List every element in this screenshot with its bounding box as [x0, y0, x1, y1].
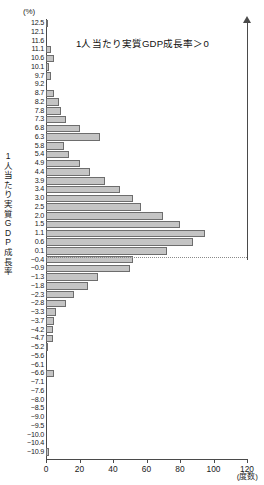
x-axis-tick-mark — [247, 459, 248, 463]
histogram-bar — [46, 221, 180, 228]
histogram-bar — [46, 125, 80, 132]
histogram-bar — [46, 72, 51, 79]
histogram-bar — [46, 177, 105, 184]
histogram-bar-row — [46, 264, 247, 273]
x-axis-tick-label: 0 — [44, 464, 49, 474]
histogram-bar — [46, 20, 48, 27]
histogram-bar-row — [46, 124, 247, 133]
histogram-bar-row — [46, 369, 247, 378]
x-axis-tick-label: 40 — [108, 464, 117, 474]
histogram-bar-row — [46, 247, 247, 256]
histogram-bar — [46, 63, 49, 70]
histogram-bar — [46, 370, 54, 377]
histogram-bar — [46, 238, 193, 245]
histogram-bar-row — [46, 133, 247, 142]
histogram-bar-row — [46, 317, 247, 326]
histogram-bar — [46, 107, 61, 114]
histogram-bar-row — [46, 19, 247, 28]
histogram-bar-row — [46, 439, 247, 448]
histogram-bar — [46, 308, 56, 315]
histogram-bar — [46, 203, 141, 210]
histogram-bar-row — [46, 107, 247, 116]
histogram-bar-row — [46, 404, 247, 413]
x-axis-tick-mark — [46, 459, 47, 463]
histogram-bar — [46, 160, 80, 167]
histogram-bar — [46, 291, 74, 298]
histogram-bar — [46, 46, 51, 53]
x-axis-tick-mark — [147, 459, 148, 463]
histogram-chart: (%) 1人当たり実質GDP成長率 12.512.111.611.110.610… — [0, 0, 264, 485]
histogram-bar — [46, 343, 48, 350]
histogram-bar-row — [46, 430, 247, 439]
histogram-bar-row — [46, 448, 247, 457]
histogram-bar-row — [46, 159, 247, 168]
y-axis-tick-labels: 12.512.111.611.110.610.19.79.28.78.27.87… — [1, 19, 44, 457]
histogram-bar-row — [46, 290, 247, 299]
histogram-bar-row — [46, 308, 247, 317]
histogram-bar-row — [46, 150, 247, 159]
histogram-bar-row — [46, 343, 247, 352]
histogram-bar-row — [46, 194, 247, 203]
x-axis-tick-mark — [214, 459, 215, 463]
plot-area — [46, 19, 247, 457]
histogram-bar-row — [46, 142, 247, 151]
x-axis-tick-mark — [113, 459, 114, 463]
histogram-bar — [46, 273, 98, 280]
histogram-bar-row — [46, 115, 247, 124]
histogram-bar — [46, 300, 66, 307]
x-axis-tick-mark — [180, 459, 181, 463]
histogram-bar-row — [46, 89, 247, 98]
histogram-bar-row — [46, 63, 247, 72]
histogram-bar-row — [46, 395, 247, 404]
histogram-bar-row — [46, 378, 247, 387]
histogram-bar-row — [46, 72, 247, 81]
histogram-bar — [46, 195, 133, 202]
histogram-bar-row — [46, 177, 247, 186]
x-axis-tick-label: 20 — [75, 464, 84, 474]
histogram-bar — [46, 142, 64, 149]
histogram-bar-row — [46, 238, 247, 247]
histogram-bar — [46, 90, 54, 97]
histogram-bar-row — [46, 413, 247, 422]
annotation-label: 1人当たり実質GDP成長率＞0 — [76, 36, 209, 50]
x-axis-tick-labels: 020406080100120 — [0, 458, 264, 480]
zero-reference-line — [46, 257, 247, 258]
histogram-bar-row — [46, 185, 247, 194]
histogram-bar-row — [46, 98, 247, 107]
histogram-bar — [46, 335, 53, 342]
x-axis-tick-label: 60 — [142, 464, 151, 474]
histogram-bar — [46, 265, 130, 272]
positive-growth-arrow — [241, 16, 253, 260]
histogram-bar — [46, 282, 88, 289]
histogram-bar-row — [46, 80, 247, 89]
histogram-bar-row — [46, 168, 247, 177]
histogram-bar-row — [46, 360, 247, 369]
arrow-shaft — [247, 22, 248, 260]
histogram-bar — [46, 55, 54, 62]
histogram-bar-row — [46, 273, 247, 282]
y-axis-tick-label: −10.9 — [4, 448, 44, 457]
histogram-bar-row — [46, 54, 247, 63]
x-axis-tick-mark — [80, 459, 81, 463]
histogram-bar — [46, 326, 53, 333]
histogram-bar-row — [46, 212, 247, 221]
x-axis-tick-label: 80 — [175, 464, 184, 474]
histogram-bar — [46, 247, 167, 254]
histogram-bar — [46, 151, 69, 158]
histogram-bar-row — [46, 334, 247, 343]
histogram-bar-row — [46, 282, 247, 291]
histogram-bar-row — [46, 352, 247, 361]
histogram-bar — [46, 212, 163, 219]
histogram-bar — [46, 116, 66, 123]
histogram-bar — [46, 133, 100, 140]
y-axis-unit-label: (%) — [23, 7, 35, 16]
histogram-bar-row — [46, 220, 247, 229]
histogram-bar-row — [46, 203, 247, 212]
histogram-bar — [46, 448, 49, 455]
x-axis-unit-label: (度数) — [237, 470, 258, 481]
histogram-bar — [46, 230, 205, 237]
histogram-bar — [46, 98, 59, 105]
histogram-bar-row — [46, 299, 247, 308]
histogram-bar-row — [46, 325, 247, 334]
histogram-bar — [46, 317, 54, 324]
